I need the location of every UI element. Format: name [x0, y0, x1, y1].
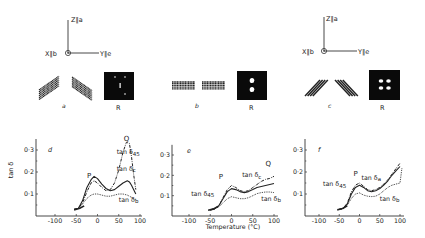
series-label: tan δb	[119, 196, 139, 205]
lamella-stack-right	[72, 77, 92, 100]
x-tick-label: 100	[268, 217, 280, 224]
peak-annotation-P: P	[353, 170, 357, 178]
x-axis-dot	[323, 50, 325, 52]
series-label: tan δ45	[191, 190, 215, 199]
xray-spot	[386, 86, 391, 90]
x-tick-label: 0	[95, 217, 99, 224]
lamella-line	[72, 79, 92, 93]
lamellae-a	[39, 76, 92, 100]
series-label: tan δ45	[117, 148, 141, 157]
x-tick-label: 0	[229, 217, 233, 224]
series-line-tan-δc	[74, 176, 136, 209]
x-axis-label: X∥b	[302, 48, 314, 56]
peak-annotation-P: P	[219, 173, 223, 181]
panel-label: d	[48, 146, 53, 154]
lamella-stack-left	[39, 76, 59, 99]
orientation-c: Z∥a X∥b Y∥e c R	[302, 15, 400, 112]
xray-spot	[250, 78, 255, 83]
lamella-line	[39, 84, 59, 98]
chart-panel-e: e Temperature (°C) -100-500501000·10·20·…	[160, 145, 281, 231]
xray-spot	[379, 79, 384, 83]
figure: Z∥a X∥b Y∥e a R b R Z∥a	[0, 0, 425, 238]
lamellae-b	[172, 82, 225, 89]
xray-spot	[114, 76, 116, 78]
xray-spot	[379, 86, 384, 90]
y-tick-label: 0·3	[160, 151, 170, 158]
x-tick-label: -50	[71, 217, 81, 224]
chart-panel-f: f -100-500501000·10·20·3Ptan δ45tan δata…	[293, 139, 406, 224]
lamella-label-a: a	[62, 102, 66, 109]
y-axis-label: Y∥e	[357, 48, 369, 56]
peak-annotation-P: P	[87, 172, 91, 180]
orientation-a: Z∥a X∥b Y∥e a R	[39, 16, 134, 112]
lamella-line	[72, 83, 92, 97]
lamella-line	[39, 76, 59, 90]
series-label: tan δa	[362, 174, 382, 183]
z-axis-label: Z∥a	[326, 15, 338, 23]
xray-spot	[124, 76, 126, 78]
y-tick-label: 0·2	[293, 168, 303, 175]
x-axis-title: Temperature (°C)	[205, 223, 260, 231]
panel-label: e	[187, 147, 191, 155]
orientation-b: b R	[172, 71, 267, 112]
xray-pattern-b	[237, 71, 267, 100]
y-tick-label: 0·2	[160, 172, 170, 179]
chart-panel-d: tan δ d -100-500501000·10·20·3PQtan δ45t…	[7, 135, 146, 224]
lamella-label-c: c	[328, 102, 332, 109]
y-tick-label: 0·3	[24, 146, 34, 153]
lamella-line	[39, 78, 59, 92]
xray-pattern-a	[104, 72, 134, 100]
series-label: tan δb	[380, 195, 400, 204]
x-tick-label: 50	[115, 217, 123, 224]
x-tick-label: -100	[312, 217, 326, 224]
lamella-line	[39, 82, 59, 96]
x-tick-label: -100	[182, 217, 196, 224]
lamella-line	[72, 81, 92, 95]
series-label: tan δ45	[323, 180, 347, 189]
x-tick-label: 50	[249, 217, 257, 224]
pattern-label-a: R	[116, 104, 121, 112]
lamella-line	[39, 80, 59, 94]
xray-spot	[120, 83, 121, 88]
lamella-line	[72, 85, 92, 99]
x-axis-label: X∥b	[45, 50, 57, 58]
x-tick-label: 100	[394, 217, 406, 224]
series-tail	[208, 206, 218, 210]
y-tick-label: 0·3	[293, 146, 303, 153]
y-axis-label: Y∥e	[99, 50, 111, 58]
peak-annotation-Q: Q	[266, 160, 272, 168]
coordinate-axes-c: Z∥a X∥b Y∥e	[302, 15, 369, 56]
lamella-line	[72, 87, 92, 101]
x-tick-label: 100	[134, 217, 146, 224]
x-tick-label: 50	[376, 217, 384, 224]
lamella-label-b: b	[195, 102, 199, 109]
y-tick-label: 0·2	[24, 168, 34, 175]
xray-spot	[250, 87, 255, 92]
panel-label: f	[318, 146, 322, 154]
peak-annotation-Q: Q	[124, 135, 130, 143]
xray-spot	[124, 93, 126, 95]
x-axis-dot	[67, 52, 69, 54]
xray-spot	[386, 79, 391, 83]
y-axis-title: tan δ	[7, 162, 15, 179]
x-tick-label: -50	[334, 217, 344, 224]
pattern-label-c: R	[380, 104, 385, 112]
z-axis-label: Z∥a	[71, 16, 83, 24]
series-tail	[337, 206, 347, 210]
series-label: tan δc	[242, 171, 261, 180]
x-tick-label: 0	[357, 217, 361, 224]
lamella-stack-right	[202, 82, 225, 89]
xray-pattern-c	[369, 70, 400, 100]
y-tick-label: 0·1	[24, 190, 34, 197]
series-label: tan δb	[261, 195, 281, 204]
coordinate-axes-a: Z∥a X∥b Y∥e	[45, 16, 111, 58]
x-tick-label: -50	[205, 217, 215, 224]
lamellae-c	[305, 80, 358, 96]
x-tick-label: -100	[48, 217, 62, 224]
y-tick-label: 0·1	[160, 192, 170, 199]
lamella-stack-left	[172, 82, 195, 89]
pattern-label-b: R	[249, 104, 254, 112]
y-tick-label: 0·1	[293, 190, 303, 197]
